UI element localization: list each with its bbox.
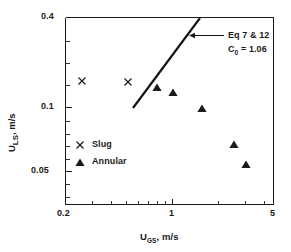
series-slug-markers [79,78,132,86]
legend-label-annular: Annular [92,157,127,166]
x-axis-title-subscript: GS [147,237,157,244]
annotation-line-2: C0 = 1.06 [228,45,267,56]
legend-label-slug: Slug [92,140,112,149]
data-point-slug [79,78,86,85]
figure-container: 0.4 0.1 0.05 0.2 1 5 UGS, m/s ULS, m/s E… [0,0,291,252]
x-axis-title: UGS, m/s [140,232,179,244]
x-axis-title-base: U [140,231,147,242]
y-tick-label-0: 0.4 [41,12,54,21]
y-tick-label-2: 0.05 [31,166,49,175]
data-point-annular [197,105,206,113]
x-axis-minor-ticks [93,201,265,205]
legend-marker-annular [75,159,84,167]
y-tick-label-1: 0.1 [41,102,54,111]
y-axis-major-ticks [66,18,72,172]
annotation-arrow [189,33,224,38]
annotation-line-1: Eq 7 & 12 [228,31,269,40]
annotation-c0-value: = 1.06 [238,44,266,54]
y-axis-title-subscript: LS [11,135,20,145]
data-point-annular [168,89,177,97]
data-point-slug [125,79,132,86]
x-tick-label-0: 0.2 [57,209,70,218]
x-tick-label-1: 1 [169,209,174,218]
legend-marker-slug [77,142,84,149]
x-axis-title-unit: , m/s [157,231,179,242]
x-tick-label-2: 5 [270,209,275,218]
y-axis-title-wrapper: ULS, m/s [6,84,22,154]
y-axis-title-base: U [6,145,17,152]
legend-markers [75,142,84,167]
annotation-c0-base: C [228,44,235,54]
y-axis-title-unit: , m/s [6,113,17,135]
data-point-annular [229,141,238,149]
y-axis-title: ULS, m/s [6,113,20,152]
y-axis-minor-ticks [66,42,70,198]
data-point-annular [152,84,161,92]
series-annular-markers [152,84,250,169]
x-axis-major-ticks [66,199,274,205]
theory-line-eq7-12 [133,18,200,108]
data-point-annular [241,161,250,169]
